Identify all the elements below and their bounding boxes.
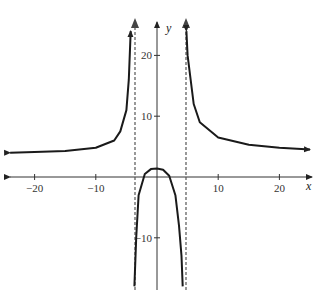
x-axis-label: x — [305, 179, 312, 193]
curve-right — [186, 31, 310, 150]
function-graph: −20−1010202010−10 x y — [0, 0, 321, 290]
x-tick-label: −10 — [87, 182, 105, 194]
asymptote-arrow-icon — [131, 18, 139, 28]
x-tick-label: 20 — [274, 182, 286, 194]
x-tick-label: −20 — [26, 182, 44, 194]
y-tick-label: 10 — [141, 110, 153, 122]
ticks: −20−1010202010−10 — [26, 49, 285, 243]
y-axis-label: y — [165, 21, 172, 35]
curves — [10, 31, 310, 286]
y-tick-label: 20 — [141, 49, 153, 61]
asymptote-arrow-icon — [182, 18, 190, 28]
curve-middle — [134, 169, 182, 287]
x-tick-label: 10 — [213, 182, 225, 194]
curve-left — [10, 31, 131, 153]
